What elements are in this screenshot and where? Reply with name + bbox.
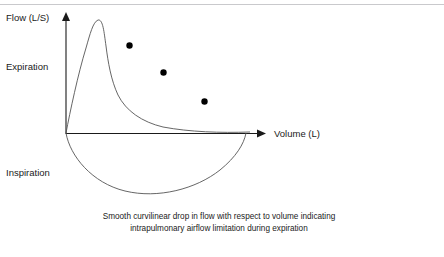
x-axis-label: Volume (L) (274, 128, 320, 139)
inspiration-curve (66, 133, 246, 194)
upper-region-label: Expiration (6, 61, 48, 72)
figure-root: Flow (L/S) Expiration Inspiration Volume… (0, 0, 444, 257)
data-point-marker (126, 42, 132, 48)
y-axis-label: Flow (L/S) (6, 12, 49, 23)
x-axis (66, 130, 266, 138)
data-point-marker (160, 69, 166, 75)
caption-line-2: intrapulmonary airflow limitation during… (130, 224, 308, 233)
y-axis-arrowhead (62, 12, 70, 21)
caption-line-1: Smooth curvilinear drop in flow with res… (103, 212, 336, 221)
expiration-curve (66, 20, 250, 133)
flow-volume-loop-diagram: Flow (L/S) Expiration Inspiration Volume… (0, 0, 444, 257)
y-axis (62, 12, 70, 134)
x-axis-arrowhead (257, 130, 266, 138)
lower-region-label: Inspiration (6, 167, 50, 178)
data-point-marker (201, 98, 207, 104)
